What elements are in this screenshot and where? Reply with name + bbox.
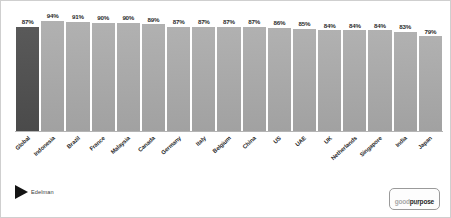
bar-rect — [318, 30, 341, 131]
bar-rect — [41, 21, 64, 131]
bar-slot: 87% — [16, 13, 39, 131]
bar-rect — [268, 28, 291, 131]
chart-footer: Edelman goodpurpose TM — [1, 179, 451, 218]
bar-value-label: 87% — [22, 19, 34, 25]
edelman-logo: Edelman — [15, 185, 54, 199]
bar-slot: 83% — [394, 13, 417, 131]
bar-value-label: 91% — [72, 14, 84, 20]
bar-slot: 84% — [318, 13, 341, 131]
bar-slot: 90% — [117, 13, 140, 131]
bar-value-label: 89% — [148, 17, 160, 23]
category-label-text: China — [242, 135, 258, 150]
bar-value-label: 84% — [324, 23, 336, 29]
category-slot: Canada — [142, 132, 165, 178]
bar-slot: 79% — [419, 13, 442, 131]
goodpurpose-good-text: good — [395, 198, 410, 205]
bar-rect — [243, 27, 266, 131]
bar-rect — [217, 27, 240, 131]
bar-rect — [117, 23, 140, 131]
bar-slot: 84% — [343, 13, 366, 131]
bar-slot: 85% — [293, 13, 316, 131]
bar-value-label: 86% — [273, 20, 285, 26]
category-label: US — [278, 130, 288, 140]
bar-slot: 87% — [243, 13, 266, 131]
bar-value-label: 84% — [349, 23, 361, 29]
bar-rect — [66, 22, 89, 131]
bar-slot: 84% — [368, 13, 391, 131]
bar-rect — [293, 29, 316, 131]
category-slot: Belgium — [217, 132, 240, 178]
bar-value-label: 90% — [122, 15, 134, 21]
goodpurpose-logo: goodpurpose — [389, 188, 440, 210]
category-label-text: UK — [323, 135, 333, 145]
goodpurpose-trademark: TM — [414, 202, 420, 206]
category-slot: Japan — [419, 132, 442, 178]
category-slot: France — [92, 132, 115, 178]
category-slot: Brazil — [66, 132, 89, 178]
category-label-text: Global — [14, 135, 31, 151]
bar-value-label: 85% — [299, 21, 311, 27]
category-slot: Indonesia — [41, 132, 64, 178]
category-label-text: Canada — [137, 135, 156, 153]
bar-rect — [142, 24, 165, 131]
category-label-text: France — [88, 135, 106, 152]
edelman-wordmark: Edelman — [31, 189, 54, 195]
bar-slot: 86% — [268, 13, 291, 131]
category-slot: India — [394, 132, 417, 178]
category-label-text: India — [394, 135, 408, 148]
bar-value-label: 87% — [198, 19, 210, 25]
bar-value-label: 83% — [399, 24, 411, 30]
bar-slot: 91% — [66, 13, 89, 131]
bar-slot: 90% — [92, 13, 115, 131]
category-label-text: Italy — [195, 135, 207, 147]
category-label-text: US — [272, 135, 282, 145]
bar-rect — [343, 30, 366, 131]
bar-slot: 94% — [41, 13, 64, 131]
bar-value-label: 87% — [248, 19, 260, 25]
bar-slot: 87% — [192, 13, 215, 131]
category-slot: Italy — [192, 132, 215, 178]
category-slot: UAE — [293, 132, 316, 178]
category-label-text: Brazil — [66, 135, 81, 150]
bar-slot: 87% — [167, 13, 190, 131]
bar-value-label: 79% — [424, 29, 436, 35]
bar-value-label: 94% — [47, 13, 59, 19]
bar-rect — [394, 32, 417, 132]
bar-rect — [16, 27, 39, 131]
category-slot: Singapore — [368, 132, 391, 178]
category-slot: US — [268, 132, 291, 178]
edelman-arrow-icon — [15, 185, 28, 199]
bar-slot: 87% — [217, 13, 240, 131]
category-label-text: UAE — [295, 135, 308, 147]
bar-rect — [192, 27, 215, 131]
category-slot: Germany — [167, 132, 190, 178]
bar-rect — [419, 36, 442, 131]
bar-rect — [92, 23, 115, 131]
bar-value-label: 84% — [374, 23, 386, 29]
bar-value-label: 90% — [97, 15, 109, 21]
bar-value-label: 87% — [173, 19, 185, 25]
category-slot: China — [243, 132, 266, 178]
bar-rect — [167, 27, 190, 131]
x-axis-category-labels: GlobalIndonesiaBrazilFranceMalaysiaCanad… — [15, 132, 443, 178]
bar-slot: 89% — [142, 13, 165, 131]
chart-page: 87%94%91%90%90%89%87%87%87%87%86%85%84%8… — [0, 0, 451, 218]
bar-value-label: 87% — [223, 19, 235, 25]
category-slot: Malaysia — [117, 132, 140, 178]
category-label-text: Japan — [417, 135, 433, 150]
